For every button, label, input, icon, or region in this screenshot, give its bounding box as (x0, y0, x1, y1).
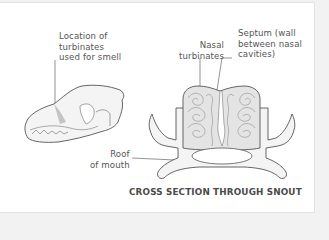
septum-leader-line (217, 58, 232, 90)
roof-of-mouth-label: Roof of mouth (90, 149, 130, 170)
dog-skull-icon (25, 85, 124, 142)
turbinates-location-label: Location of turbinates used for smell (59, 31, 121, 63)
diagram-caption: CROSS SECTION THROUGH SNOUT (129, 187, 302, 197)
nasal-turbinates-label: Nasal turbinates (179, 40, 224, 61)
snout-cross-section-icon (149, 86, 295, 179)
palate-shape (192, 148, 252, 164)
septum-label: Septum (wall between nasal cavities) (238, 28, 302, 60)
